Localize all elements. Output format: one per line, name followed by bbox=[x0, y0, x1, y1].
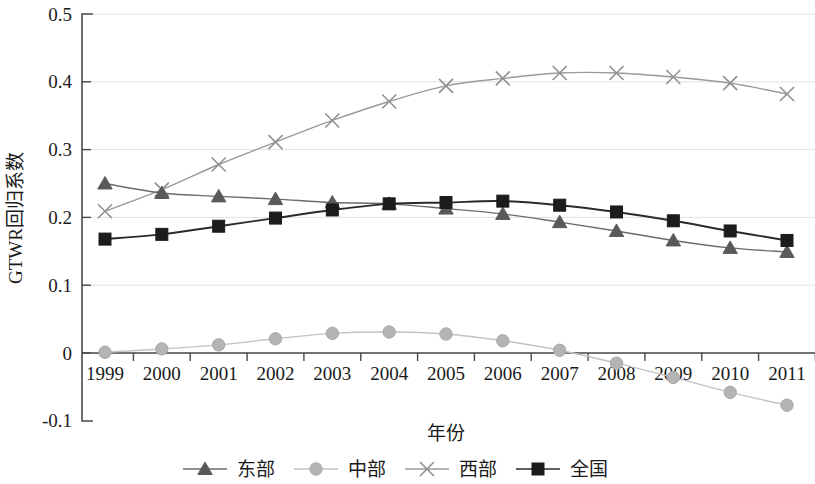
data-point-marker bbox=[382, 94, 396, 108]
xtick-labels-group: 1999200020012002200320042005200620072008… bbox=[86, 363, 806, 384]
y-axis-title: GTWR回归系数 bbox=[5, 152, 26, 284]
series-group bbox=[98, 66, 794, 411]
data-point-marker bbox=[724, 225, 736, 237]
series-line bbox=[105, 72, 787, 211]
data-point-marker bbox=[667, 371, 679, 383]
data-point-marker bbox=[212, 339, 224, 351]
x-tick-label: 2010 bbox=[711, 363, 749, 384]
series-全国 bbox=[99, 195, 793, 246]
data-point-marker bbox=[383, 198, 395, 210]
data-point-marker bbox=[156, 343, 168, 355]
legend-item-东部[interactable]: 东部 bbox=[183, 459, 275, 480]
y-tick-label: 0.5 bbox=[48, 4, 72, 25]
x-tick-label: 2002 bbox=[257, 363, 295, 384]
data-point-marker bbox=[497, 195, 509, 207]
y-tick-label: 0.4 bbox=[48, 71, 72, 92]
data-point-marker bbox=[270, 212, 282, 224]
legend-item-中部[interactable]: 中部 bbox=[294, 459, 386, 480]
y-tick-label: 0.3 bbox=[48, 139, 72, 160]
data-point-marker bbox=[440, 196, 452, 208]
data-point-marker bbox=[98, 177, 112, 190]
data-point-marker bbox=[156, 228, 168, 240]
data-point-marker bbox=[667, 215, 679, 227]
data-point-marker bbox=[269, 135, 283, 149]
legend-label: 中部 bbox=[348, 459, 386, 480]
data-point-marker bbox=[269, 333, 281, 345]
ytick-labels-group: -0.100.10.20.30.40.5 bbox=[42, 4, 73, 432]
data-point-marker bbox=[553, 344, 565, 356]
x-tick-label: 2001 bbox=[200, 363, 238, 384]
data-point-marker bbox=[554, 199, 566, 211]
x-tick-label: 2000 bbox=[143, 363, 181, 384]
legend-label: 全国 bbox=[570, 459, 608, 480]
x-tick-label: 2005 bbox=[427, 363, 465, 384]
x-tick-label: 2011 bbox=[768, 363, 805, 384]
legend-label: 东部 bbox=[237, 459, 275, 480]
data-point-marker bbox=[610, 357, 622, 369]
data-point-marker bbox=[99, 346, 111, 358]
data-point-marker bbox=[780, 87, 794, 101]
chart-canvas: -0.100.10.20.30.40.5 1999200020012002200… bbox=[0, 0, 815, 484]
legend-item-西部[interactable]: 西部 bbox=[405, 459, 497, 480]
data-point-marker bbox=[326, 327, 338, 339]
gtwr-coefficient-line-chart: -0.100.10.20.30.40.5 1999200020012002200… bbox=[0, 0, 815, 484]
gridlines-group bbox=[82, 14, 815, 353]
data-point-marker bbox=[213, 220, 225, 232]
data-point-marker bbox=[99, 233, 111, 245]
data-point-marker bbox=[497, 335, 509, 347]
data-point-marker bbox=[440, 328, 452, 340]
y-tick-label: -0.1 bbox=[42, 410, 72, 431]
data-point-marker bbox=[325, 113, 339, 127]
x-tick-label: 1999 bbox=[86, 363, 124, 384]
x-tick-label: 2004 bbox=[370, 363, 409, 384]
x-tick-label: 2006 bbox=[484, 363, 522, 384]
data-point-marker bbox=[439, 79, 453, 93]
circle-marker bbox=[310, 463, 322, 475]
y-tick-label: 0.1 bbox=[48, 275, 72, 296]
data-point-marker bbox=[326, 204, 338, 216]
square-marker bbox=[532, 463, 544, 475]
y-tick-label: 0.2 bbox=[48, 207, 72, 228]
data-point-marker bbox=[212, 158, 226, 172]
legend-item-全国[interactable]: 全国 bbox=[516, 459, 608, 480]
axis-titles-group: GTWR回归系数年份 bbox=[5, 152, 465, 444]
legend-group: 东部中部西部全国 bbox=[183, 459, 608, 480]
y-tick-label: 0 bbox=[63, 343, 73, 364]
data-point-marker bbox=[611, 206, 623, 218]
x-tick-label: 2003 bbox=[313, 363, 351, 384]
data-point-marker bbox=[383, 326, 395, 338]
data-point-marker bbox=[724, 386, 736, 398]
x-axis-title: 年份 bbox=[427, 423, 465, 444]
data-point-marker bbox=[781, 399, 793, 411]
legend-label: 西部 bbox=[459, 459, 497, 480]
data-point-marker bbox=[98, 204, 112, 218]
x-tick-label: 2007 bbox=[541, 363, 579, 384]
data-point-marker bbox=[781, 234, 793, 246]
